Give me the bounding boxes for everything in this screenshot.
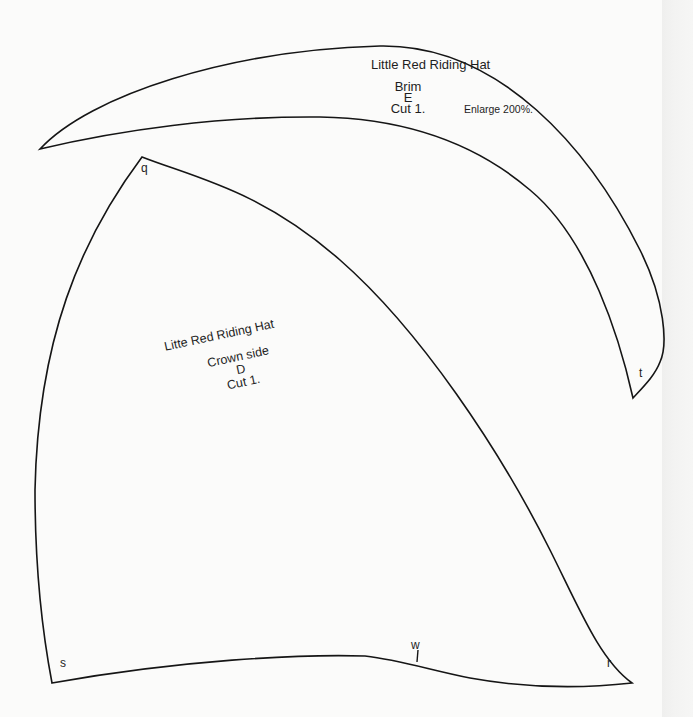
point-label-q: q — [141, 162, 148, 174]
brim-info: Brim E Cut 1. — [373, 81, 443, 114]
brim-outline — [40, 46, 664, 398]
point-label-w: w — [411, 639, 420, 651]
enlarge-note: Enlarge 200%. — [464, 104, 533, 115]
point-label-r: r — [607, 657, 611, 669]
point-label-s: s — [60, 657, 66, 669]
brim-title: Little Red Riding Hat — [371, 58, 490, 71]
brim-cut: Cut 1. — [373, 103, 443, 114]
crown-side-outline — [35, 157, 632, 687]
point-label-t: t — [639, 367, 642, 379]
pattern-outlines — [0, 0, 693, 717]
